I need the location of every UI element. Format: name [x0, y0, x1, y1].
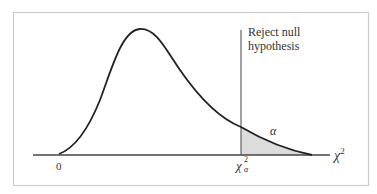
svg-text:α: α — [244, 165, 249, 174]
annotation-line1: Reject null — [248, 25, 301, 39]
figure-frame — [14, 13, 369, 186]
chi-square-diagram: Reject null hypothesis α 0 χ2 χ 2 α — [0, 0, 377, 194]
origin-label: 0 — [56, 160, 62, 172]
svg-text:χ: χ — [234, 158, 242, 173]
svg-text:2: 2 — [244, 155, 248, 164]
alpha-label: α — [270, 124, 277, 138]
x-axis-label: χ2 — [332, 146, 345, 163]
critical-value-label: χ 2 α — [234, 155, 249, 174]
annotation-line2: hypothesis — [248, 39, 300, 53]
rejection-region — [241, 127, 312, 155]
